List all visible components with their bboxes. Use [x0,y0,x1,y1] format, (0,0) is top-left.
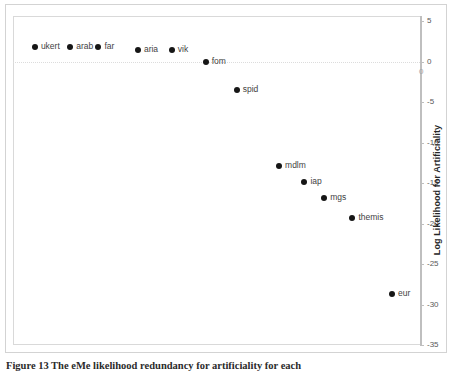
scatter-point-marker [321,195,327,201]
y-axis-tick-label: -5 [427,98,434,106]
y-axis-tick-mark [420,305,424,306]
scatter-point-marker [67,44,73,50]
scatter-point-label: far [104,42,114,51]
scatter-point-label: arab [76,42,93,51]
figure-caption: Figure 13 The eMe likelihood redundancy … [6,360,446,374]
y-axis-tick-mark [420,143,424,144]
y-axis-title: Log Likelihood for Artificiality [432,120,442,260]
y-axis-tick-label: 0 [427,58,431,66]
scatter-point-label: themis [358,213,383,222]
scatter-point-label: fom [212,57,226,66]
scatter-point-marker [389,291,395,297]
scatter-point-marker [203,59,209,65]
scatter-point-label: spid [243,85,259,94]
scatter-point-marker [32,44,38,50]
y-axis-tick-mark [420,264,424,265]
scatter-point-marker [135,47,141,53]
scatter-point-label: ukert [41,42,60,51]
y-axis-line [420,16,422,345]
y-axis-tick-mark [420,62,424,63]
scatter-point-label: mgs [330,193,346,202]
y-axis-tick-label: -30 [427,301,439,309]
y-axis-tick-mark [420,21,424,22]
y-axis-tick-mark [420,345,424,346]
scatter-point-label: iap [310,177,321,186]
scatter-point-label: mdlm [285,161,306,170]
scatter-point-label: aria [144,45,158,54]
y-axis-tick-mark [420,224,424,225]
scatter-point-marker [301,179,307,185]
y-axis-tick-label: 5 [427,17,431,25]
scatter-point-marker [349,215,355,221]
y-axis-tick-label: -25 [427,260,439,268]
figure-root: ukertarabfarariavikfomspidmdlmiapmgsthem… [0,0,454,379]
scatter-point-marker [95,44,101,50]
scatter-point-marker [276,163,282,169]
axis-origin-label: 0 [419,68,423,76]
y-axis-tick-label: -35 [427,341,439,349]
scatter-point-marker [234,87,240,93]
scatter-plot-canvas: ukertarabfarariavikfomspidmdlmiapmgsthem… [13,16,420,345]
scatter-point-label: eur [398,289,410,298]
y-axis-tick-mark [420,183,424,184]
scatter-point-label: vik [178,45,188,54]
y-axis-tick-mark [420,102,424,103]
scatter-point-marker [169,47,175,53]
